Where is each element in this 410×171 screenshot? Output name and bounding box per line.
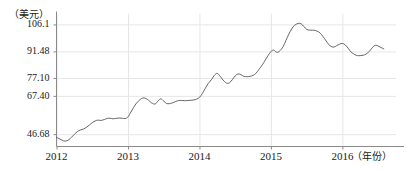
chart-plot-area	[0, 0, 410, 171]
x-axis-tick-label: 2013	[108, 151, 148, 162]
x-axis-tick-label: 2015	[251, 151, 291, 162]
y-axis-tick-label: 91.48	[10, 46, 50, 56]
data-line-series-0	[57, 23, 384, 141]
y-axis-tick-label: 77.10	[10, 73, 50, 83]
y-axis-tick-label: 67.40	[10, 91, 50, 101]
x-axis-tick-label: 2014	[179, 151, 219, 162]
line-chart: （美元） （年份） 46.6867.4077.1091.48106.1 2012…	[0, 0, 410, 171]
gridlines	[57, 14, 397, 147]
x-axis-tick-label: 2016	[322, 151, 362, 162]
y-axis-tick-label: 106.1	[10, 19, 50, 29]
axes	[57, 12, 405, 147]
y-axis-tick-label: 46.68	[10, 129, 50, 139]
axis-ticks	[54, 25, 343, 150]
x-axis-tick-label: 2012	[37, 151, 77, 162]
